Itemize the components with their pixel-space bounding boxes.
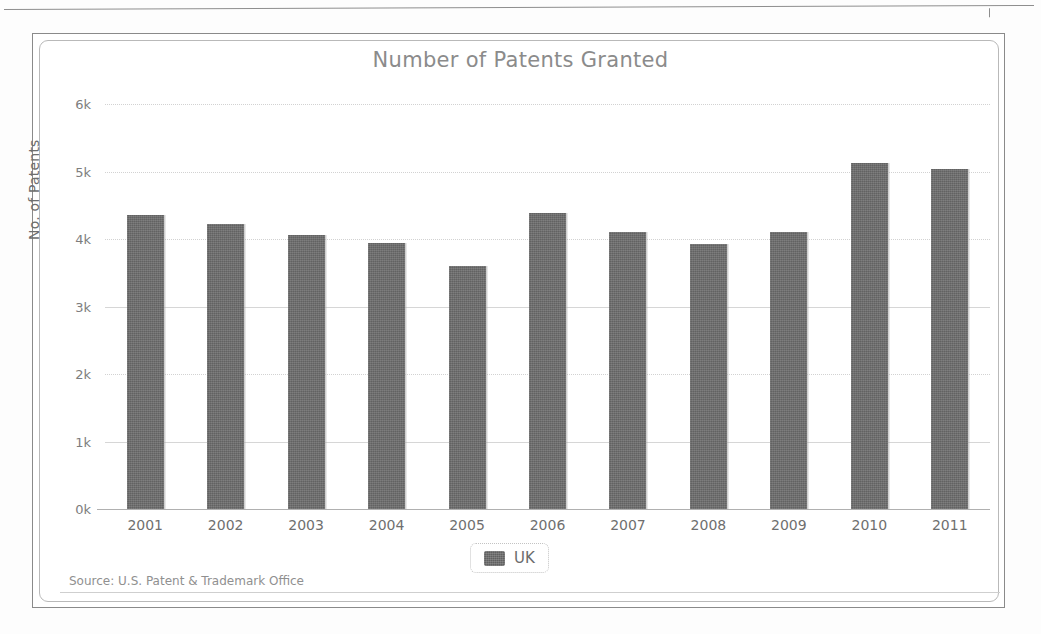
x-axis-tick-label: 2011 xyxy=(915,517,985,533)
x-axis-tick-label: 2006 xyxy=(513,517,583,533)
page-header-rule xyxy=(4,5,1034,10)
plot-area: 0k1k2k3k4k5k6k20012002200320042005200620… xyxy=(105,104,990,509)
x-axis-tick-label: 2010 xyxy=(834,517,904,533)
bar[interactable] xyxy=(931,169,968,509)
bar[interactable] xyxy=(127,215,164,509)
bar[interactable] xyxy=(851,163,888,509)
bar[interactable] xyxy=(368,243,405,509)
y-axis-tick-label: 5k xyxy=(47,164,91,179)
source-note: Source: U.S. Patent & Trademark Office xyxy=(69,574,304,588)
x-axis-tick-label: 2008 xyxy=(673,517,743,533)
gridline xyxy=(105,104,990,105)
chart-title: Number of Patents Granted xyxy=(0,48,1041,72)
y-axis-title: No. of Patents xyxy=(26,139,42,240)
x-axis-tick-label: 2004 xyxy=(352,517,422,533)
x-axis-tick-label: 2005 xyxy=(432,517,502,533)
x-axis-line xyxy=(97,509,990,510)
page-header-rule-tick xyxy=(989,8,990,17)
x-axis-tick-label: 2009 xyxy=(754,517,824,533)
y-axis-tick-label: 0k xyxy=(47,502,91,517)
legend-entry-label: UK xyxy=(514,549,535,567)
x-axis-tick-label: 2001 xyxy=(110,517,180,533)
bar[interactable] xyxy=(529,213,566,509)
x-axis-tick-label: 2007 xyxy=(593,517,663,533)
y-axis-tick-label: 2k xyxy=(47,367,91,382)
y-axis-tick-label: 1k xyxy=(47,434,91,449)
y-axis-tick-label: 3k xyxy=(47,299,91,314)
bar[interactable] xyxy=(449,266,486,509)
y-axis-tick-label: 6k xyxy=(47,97,91,112)
bar[interactable] xyxy=(770,232,807,509)
source-underline xyxy=(60,592,1000,593)
bar[interactable] xyxy=(690,244,727,509)
y-axis-tick-label: 4k xyxy=(47,232,91,247)
chart-legend: UK xyxy=(470,543,549,573)
series-swatch-icon xyxy=(484,551,505,566)
scanned-page: Number of Patents Granted No. of Patents… xyxy=(0,0,1041,634)
bar[interactable] xyxy=(609,232,646,509)
x-axis-tick-label: 2003 xyxy=(271,517,341,533)
bar[interactable] xyxy=(288,235,325,509)
x-axis-tick-label: 2002 xyxy=(191,517,261,533)
bar[interactable] xyxy=(207,224,244,509)
